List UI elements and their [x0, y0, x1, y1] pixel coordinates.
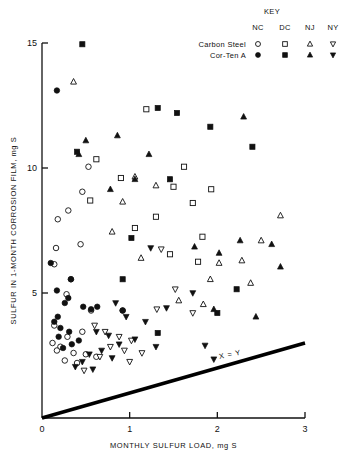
legend-marker-triangle-down: [330, 42, 335, 47]
x-axis-title: MONTHLY SULFUR LOAD, mg S: [110, 441, 237, 450]
data-point: [121, 348, 127, 354]
y-axis-title: SULFUR IN 1-MONTH CORROSION FILM, mg S: [9, 137, 18, 325]
x-equals-y-line: [42, 343, 305, 418]
data-point: [109, 229, 115, 235]
y-tick-label: 15: [27, 38, 37, 48]
data-point: [94, 304, 100, 310]
data-point: [167, 252, 172, 257]
data-point: [78, 241, 84, 247]
data-point: [90, 367, 96, 373]
data-point: [208, 124, 213, 129]
data-point: [153, 214, 158, 219]
data-point: [83, 137, 89, 143]
data-point: [80, 304, 86, 310]
data-point: [192, 244, 198, 250]
data-point: [80, 189, 86, 195]
legend-row-label: Carbon Steel: [199, 40, 246, 49]
data-point: [48, 260, 54, 266]
data-point: [155, 105, 160, 110]
data-point: [86, 164, 92, 170]
data-point: [93, 329, 99, 335]
data-point: [54, 288, 60, 294]
data-point: [190, 291, 196, 297]
data-point: [190, 311, 196, 317]
data-point: [209, 187, 214, 192]
data-point: [202, 343, 208, 349]
data-point: [258, 237, 264, 243]
data-point: [146, 151, 152, 157]
data-point: [200, 234, 205, 239]
series-carbon-steel-ny: [81, 247, 196, 374]
data-point: [148, 246, 154, 252]
y-tick-label: 10: [27, 163, 37, 173]
data-point: [71, 79, 77, 85]
data-point: [80, 42, 85, 47]
legend-title: KEY: [264, 7, 280, 16]
data-point: [69, 341, 75, 347]
data-point: [154, 307, 160, 313]
data-point: [66, 208, 72, 214]
data-point: [116, 334, 122, 340]
data-point: [211, 357, 217, 363]
data-point: [253, 314, 259, 320]
y-tick-label: 5: [32, 288, 37, 298]
data-point: [158, 247, 164, 253]
data-point: [106, 333, 112, 339]
data-point: [120, 199, 126, 205]
data-point: [250, 144, 255, 149]
data-point: [278, 212, 284, 218]
legend-column-DC: DC: [279, 23, 291, 32]
data-point: [139, 351, 145, 357]
data-point: [88, 306, 94, 312]
data-point: [181, 164, 186, 169]
data-point: [53, 245, 59, 251]
data-point: [153, 182, 159, 188]
data-point: [174, 110, 179, 115]
legend-marker-circle: [256, 42, 261, 47]
data-point: [81, 368, 87, 374]
data-point: [54, 348, 60, 354]
data-point: [167, 177, 172, 182]
data-point: [190, 200, 195, 205]
data-point: [79, 359, 85, 365]
data-point: [211, 306, 217, 312]
data-point: [71, 350, 77, 356]
legend: KEYNCDCNJNYCarbon SteelCor-Ten A: [199, 7, 339, 60]
data-point: [56, 334, 62, 340]
x-equals-y-label: X = Y: [218, 348, 242, 361]
data-point: [172, 287, 178, 293]
legend-column-NJ: NJ: [305, 23, 315, 32]
data-point: [120, 277, 125, 282]
legend-column-NC: NC: [252, 23, 264, 32]
data-point: [62, 300, 68, 306]
legend-marker-circle: [256, 53, 261, 58]
data-point: [107, 344, 113, 350]
data-point: [123, 314, 129, 320]
data-point: [66, 295, 72, 301]
data-point: [55, 216, 61, 222]
legend-marker-square: [283, 42, 288, 47]
legend-column-NY: NY: [327, 23, 338, 32]
data-point: [66, 329, 72, 335]
data-point: [241, 114, 247, 120]
data-points-layer: [48, 42, 283, 374]
data-point: [269, 241, 275, 247]
data-point: [278, 264, 284, 270]
data-point: [216, 260, 222, 266]
legend-row-label: Cor-Ten A: [210, 51, 246, 60]
reference-line: X = Y: [42, 343, 305, 418]
x-tick-label: 2: [215, 424, 220, 434]
legend-marker-triangle-down: [330, 53, 335, 58]
legend-marker-square: [283, 53, 288, 58]
data-point: [76, 338, 82, 344]
data-point: [143, 319, 149, 325]
data-point: [99, 348, 105, 354]
data-point: [127, 359, 133, 365]
data-point: [60, 345, 66, 351]
data-point: [138, 255, 144, 261]
series-cor-ten-a-dc: [74, 42, 254, 336]
data-point: [129, 235, 134, 240]
data-point: [234, 287, 239, 292]
data-point: [207, 276, 213, 282]
scatter-plot: 510150123 X = Y KEYNCDCNJNYCarbon SteelC…: [0, 0, 341, 470]
